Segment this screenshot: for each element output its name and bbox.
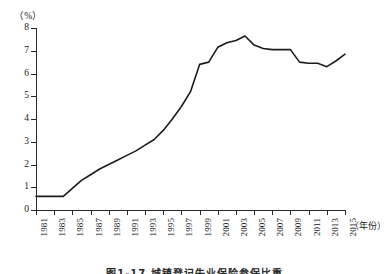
x-tick-1993 bbox=[145, 211, 146, 215]
x-tick-1981 bbox=[36, 211, 37, 215]
x-tick-label-1993: 1993 bbox=[149, 218, 158, 236]
x-tick-label-2007: 2007 bbox=[276, 218, 285, 236]
x-tick-2015 bbox=[345, 211, 346, 215]
x-tick-label-2013: 2013 bbox=[331, 218, 340, 236]
y-tick-label-4: 4 bbox=[9, 114, 29, 124]
y-tick-label-3: 3 bbox=[9, 137, 29, 147]
x-tick-label-1989: 1989 bbox=[113, 218, 122, 236]
x-tick-1999 bbox=[200, 211, 201, 215]
x-tick-label-1991: 1991 bbox=[131, 218, 140, 236]
x-tick-2007 bbox=[272, 211, 273, 215]
y-tick-label-5: 5 bbox=[9, 92, 29, 102]
y-tick-label-7: 7 bbox=[9, 46, 29, 56]
x-tick-label-2005: 2005 bbox=[258, 218, 267, 236]
x-tick-2009 bbox=[290, 211, 291, 215]
x-tick-label-1981: 1981 bbox=[40, 218, 49, 236]
series-line-bizhong bbox=[36, 36, 345, 196]
x-tick-1987 bbox=[91, 211, 92, 215]
y-tick-label-wrap: 3 bbox=[8, 142, 29, 143]
x-tick-1985 bbox=[72, 211, 73, 215]
x-tick-1989 bbox=[109, 211, 110, 215]
figure-caption: 图1-17 城镇登记失业保险参保比重 bbox=[0, 265, 389, 274]
y-tick-label-wrap: 0 bbox=[8, 210, 29, 211]
x-tick-2003 bbox=[236, 211, 237, 215]
x-tick-1991 bbox=[127, 211, 128, 215]
y-tick-label-wrap: 6 bbox=[8, 74, 29, 75]
x-tick-1997 bbox=[181, 211, 182, 215]
x-tick-2013 bbox=[327, 211, 328, 215]
y-tick-label-wrap: 7 bbox=[8, 51, 29, 52]
x-tick-label-1995: 1995 bbox=[167, 218, 176, 236]
y-tick-label-1: 1 bbox=[9, 183, 29, 193]
y-axis-unit-label: （%） bbox=[14, 8, 43, 22]
x-tick-label-1997: 1997 bbox=[185, 218, 194, 236]
x-tick-1995 bbox=[163, 211, 164, 215]
y-tick-label-wrap: 5 bbox=[8, 96, 29, 97]
x-axis-unit-label: （年份） bbox=[350, 219, 386, 232]
x-tick-label-1999: 1999 bbox=[204, 218, 213, 236]
figure-container: （%） 012345678 19811983198519871989199119… bbox=[0, 0, 389, 274]
y-tick-label-wrap: 8 bbox=[8, 28, 29, 29]
x-tick-label-1985: 1985 bbox=[76, 218, 85, 236]
y-tick-label-0: 0 bbox=[9, 205, 29, 215]
x-tick-label-2001: 2001 bbox=[222, 218, 231, 236]
y-tick-label-8: 8 bbox=[9, 23, 29, 33]
x-tick-label-1983: 1983 bbox=[58, 218, 67, 236]
x-tick-label-1987: 1987 bbox=[95, 218, 104, 236]
x-tick-label-2009: 2009 bbox=[294, 218, 303, 236]
y-tick-label-2: 2 bbox=[9, 160, 29, 170]
x-tick-2001 bbox=[218, 211, 219, 215]
x-tick-2011 bbox=[309, 211, 310, 215]
x-tick-label-2011: 2011 bbox=[313, 218, 322, 236]
x-tick-2005 bbox=[254, 211, 255, 215]
x-tick-label-2003: 2003 bbox=[240, 218, 249, 236]
y-tick-label-wrap: 2 bbox=[8, 165, 29, 166]
y-tick-label-wrap: 1 bbox=[8, 187, 29, 188]
chart-plot-area bbox=[36, 28, 345, 211]
y-tick-label-6: 6 bbox=[9, 69, 29, 79]
x-tick-1983 bbox=[54, 211, 55, 215]
y-tick-label-wrap: 4 bbox=[8, 119, 29, 120]
